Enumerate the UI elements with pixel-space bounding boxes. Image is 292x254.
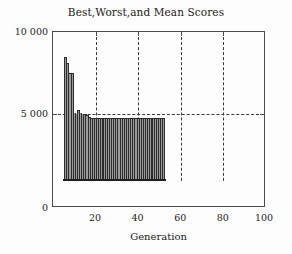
tick-right-5000 xyxy=(260,114,264,115)
y-tick-label-5000: 5 000 xyxy=(2,108,48,119)
x-tick-label-40: 40 xyxy=(132,212,144,223)
below-baseline-mask xyxy=(53,181,264,206)
x-tick-label-80: 80 xyxy=(217,212,229,223)
y-tick-label-10000: 10 000 xyxy=(2,26,48,37)
tick-left-5000 xyxy=(53,114,57,115)
x-axis-tick-labels: 20 40 60 80 100 xyxy=(0,212,292,226)
tick-top-40 xyxy=(138,32,139,36)
x-axis-title: Generation xyxy=(52,231,265,242)
x-tick-label-20: 20 xyxy=(89,212,101,223)
chart-figure: Best,Worst,and Mean Scores 10 000 5 000 … xyxy=(0,0,292,254)
tick-top-60 xyxy=(181,32,182,36)
x-tick-label-100: 100 xyxy=(255,212,273,223)
plot-area xyxy=(52,31,265,207)
tick-top-20 xyxy=(96,32,97,36)
tick-top-80 xyxy=(223,32,224,36)
x-tick-label-60: 60 xyxy=(174,212,186,223)
